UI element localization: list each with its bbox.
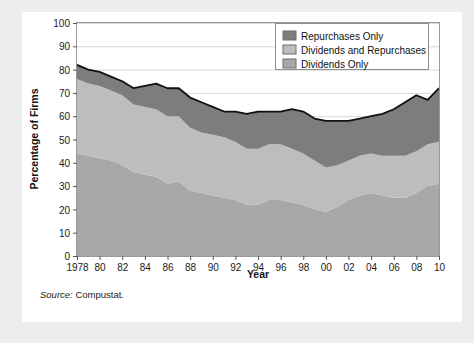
figure-card: 0102030405060708090100 19788082848688909… [22,12,462,322]
legend-label: Dividends and Repurchases [301,45,426,56]
x-tick-label: 92 [230,262,242,273]
x-tick-label: 08 [411,262,423,273]
y-tick-label: 100 [53,18,70,29]
x-tick-label: 80 [95,262,107,273]
x-tick-label: 1978 [66,262,89,273]
y-tick-label: 20 [59,205,71,216]
x-tick-label: 90 [208,262,220,273]
x-tick-label: 86 [162,262,174,273]
legend-label: Dividends Only [301,59,368,70]
x-tick-label: 84 [140,262,152,273]
y-tick-label: 10 [59,228,71,239]
x-tick-label: 00 [321,262,333,273]
legend-swatch [283,59,296,68]
y-tick-label: 50 [59,135,71,146]
y-tick-label: 90 [59,41,71,52]
y-axis-ticks: 0102030405060708090100 [53,18,77,262]
x-tick-label: 06 [389,262,401,273]
source-value: Compustat. [75,289,124,300]
y-tick-label: 40 [59,158,71,169]
chart-region: 0102030405060708090100 19788082848688909… [22,12,462,280]
y-tick-label: 0 [64,251,70,262]
x-tick-label: 88 [185,262,197,273]
stacked-area-chart: 0102030405060708090100 19788082848688909… [22,12,462,280]
y-tick-label: 80 [59,65,71,76]
x-tick-label: 82 [117,262,129,273]
y-axis-title: Percentage of Firms [28,88,40,189]
x-tick-label: 10 [434,262,446,273]
source-note: Source: Compustat. [40,289,124,300]
source-label: Source: [40,289,73,300]
y-tick-label: 60 [59,111,71,122]
x-tick-label: 98 [298,262,310,273]
chart-legend: Repurchases OnlyDividends and Repurchase… [276,24,429,70]
x-tick-label: 96 [276,262,288,273]
legend-swatch [283,45,296,54]
x-tick-label: 04 [366,262,378,273]
legend-label: Repurchases Only [301,31,383,42]
y-tick-label: 70 [59,88,71,99]
x-axis-title: Year [247,268,269,280]
x-tick-label: 02 [343,262,355,273]
legend-swatch [283,31,296,40]
y-tick-label: 30 [59,181,71,192]
